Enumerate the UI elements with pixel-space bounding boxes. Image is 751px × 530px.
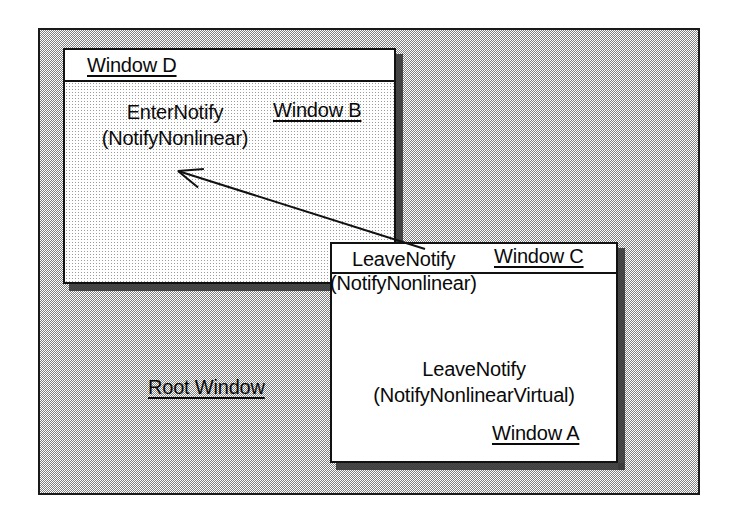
window-d-enternotify-label: EnterNotify [75, 100, 275, 124]
window-c-title-label: Window C [494, 244, 584, 268]
window-c-leavenotify-detail-label: (NotifyNonlinear) [330, 271, 477, 295]
diagram-canvas: Root Window Window D EnterNotify (Notify… [0, 0, 751, 530]
window-d-enternotify-detail-label: (NotifyNonlinear) [67, 126, 283, 150]
window-d-titlebar[interactable]: Window D [65, 50, 394, 82]
window-c-shadow-bottom [336, 463, 624, 470]
window-c-shadow-right [618, 248, 625, 470]
root-window-label: Root Window [148, 375, 265, 399]
window-a-leavenotify-label: LeaveNotify [332, 357, 616, 381]
window-b-label: Window B [273, 98, 361, 122]
window-a-leavenotify-detail-label: (NotifyNonlinearVirtual) [332, 383, 616, 407]
window-a-label: Window A [492, 421, 579, 445]
window-d-title-label: Window D [87, 53, 177, 77]
window-c-leavenotify-label: LeaveNotify [352, 247, 455, 271]
window-c[interactable]: Window C LeaveNotify (NotifyNonlinear) L… [330, 242, 618, 463]
